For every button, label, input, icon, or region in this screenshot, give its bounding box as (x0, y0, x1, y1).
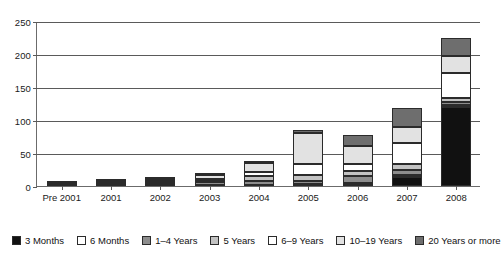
x-axis-tick-label: 2004 (248, 192, 269, 203)
legend-item[interactable]: 20 Years or more (415, 235, 500, 246)
bar-segment[interactable] (343, 171, 373, 176)
bar-segment[interactable] (343, 164, 373, 171)
bar-segment[interactable] (293, 181, 323, 184)
y-axis-tick-label: 150 (15, 83, 31, 94)
bar-group[interactable]: 2008 (432, 22, 481, 186)
x-axis-tick-label: 2006 (347, 192, 368, 203)
bar-segment[interactable] (145, 179, 175, 181)
bar-segment[interactable] (195, 179, 225, 181)
legend-item-label: 10–19 Years (349, 235, 402, 246)
y-axis-tick-label: 100 (15, 116, 31, 127)
bar-segment[interactable] (392, 127, 422, 144)
x-axis-tick-label: 2005 (298, 192, 319, 203)
bar-group[interactable]: 2005 (284, 22, 333, 186)
x-axis-tick-label: 2008 (446, 192, 467, 203)
x-axis-tick-label: Pre 2001 (42, 192, 81, 203)
bar-segment[interactable] (195, 173, 225, 175)
bar-segment[interactable] (441, 73, 471, 98)
bar-group[interactable]: 2002 (136, 22, 185, 186)
bar-segment[interactable] (343, 135, 373, 147)
y-axis-tick-label: 200 (15, 50, 31, 61)
y-axis-tick-label: 0 (26, 182, 31, 193)
bar-segment[interactable] (343, 176, 373, 183)
legend-swatch-icon (77, 236, 86, 245)
x-axis-tick-label: 2007 (396, 192, 417, 203)
bar-segment[interactable] (441, 56, 471, 73)
bar-segment[interactable] (441, 98, 471, 101)
legend-item[interactable]: 3 Months (12, 235, 64, 246)
legend-item-label: 5 Years (223, 235, 255, 246)
y-axis-tick-mark (33, 187, 37, 188)
bar-segment[interactable] (244, 181, 274, 184)
bar-group[interactable]: 2006 (333, 22, 382, 186)
bar-segment[interactable] (244, 172, 274, 176)
legend-item-label: 6 Months (90, 235, 129, 246)
bar-segment[interactable] (195, 175, 225, 178)
bar-segment[interactable] (441, 38, 471, 56)
legend-item[interactable]: 5 Years (210, 235, 255, 246)
legend-swatch-icon (415, 236, 424, 245)
legend-item-label: 3 Months (25, 235, 64, 246)
bar-segment[interactable] (293, 130, 323, 133)
plot-area: 050100150200250 Pre 20012001200220032004… (36, 22, 480, 187)
bar-group[interactable]: 2007 (382, 22, 431, 186)
bar-segment[interactable] (293, 164, 323, 175)
chart-legend: 3 Months6 Months1–4 Years5 Years6–9 Year… (12, 231, 478, 249)
bar-segment[interactable] (392, 177, 422, 186)
bar-segment[interactable] (392, 170, 422, 175)
bar-segment[interactable] (293, 175, 323, 181)
legend-swatch-icon (210, 236, 219, 245)
legend-item-label: 6–9 Years (281, 235, 323, 246)
legend-swatch-icon (336, 236, 345, 245)
x-axis-tick-mark (160, 186, 161, 190)
legend-swatch-icon (142, 236, 151, 245)
bar-segment[interactable] (343, 146, 373, 164)
x-axis-tick-label: 2002 (150, 192, 171, 203)
bar-group[interactable]: 2001 (86, 22, 135, 186)
x-axis-tick-label: 2001 (100, 192, 121, 203)
legend-item[interactable]: 10–19 Years (336, 235, 402, 246)
x-axis-tick-mark (456, 186, 457, 190)
bars-layer: Pre 200120012002200320042005200620072008 (37, 22, 480, 186)
x-axis-tick-mark (111, 186, 112, 190)
y-axis-tick-label: 50 (20, 149, 31, 160)
x-axis-tick-label: 2003 (199, 192, 220, 203)
bar-segment[interactable] (244, 163, 274, 172)
legend-swatch-icon (268, 236, 277, 245)
x-axis-tick-mark (308, 186, 309, 190)
legend-swatch-icon (12, 236, 21, 245)
legend-item[interactable]: 6–9 Years (268, 235, 323, 246)
bar-segment[interactable] (195, 182, 225, 185)
bar-segment[interactable] (392, 108, 422, 126)
bar-segment[interactable] (47, 181, 77, 183)
bar-segment[interactable] (244, 176, 274, 181)
bar-segment[interactable] (441, 102, 471, 106)
bar-group[interactable]: Pre 2001 (37, 22, 86, 186)
x-axis-tick-mark (358, 186, 359, 190)
y-axis-tick-label: 250 (15, 17, 31, 28)
x-axis-tick-mark (259, 186, 260, 190)
legend-item-label: 1–4 Years (155, 235, 197, 246)
legend-item[interactable]: 6 Months (77, 235, 129, 246)
bar-segment[interactable] (392, 143, 422, 163)
bar-segment[interactable] (145, 177, 175, 179)
x-axis-tick-mark (407, 186, 408, 190)
bar-segment[interactable] (96, 179, 126, 181)
legend-item-label: 20 Years or more (428, 235, 500, 246)
bar-group[interactable]: 2004 (234, 22, 283, 186)
x-axis-tick-mark (62, 186, 63, 190)
bar-segment[interactable] (244, 161, 274, 163)
bar-segment[interactable] (441, 107, 471, 186)
bar-segment[interactable] (392, 164, 422, 171)
bar-segment[interactable] (293, 133, 323, 164)
x-axis-tick-mark (210, 186, 211, 190)
legend-item[interactable]: 1–4 Years (142, 235, 197, 246)
bar-group[interactable]: 2003 (185, 22, 234, 186)
